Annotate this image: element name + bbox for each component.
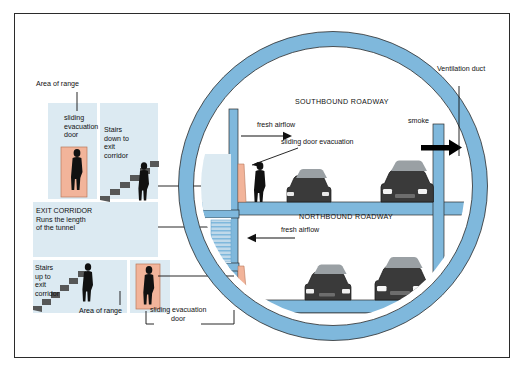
label-ventilation-duct: Ventilation duct [437, 65, 485, 74]
label-sliding-door-evacuation: sliding door evacuation [281, 138, 354, 147]
diagram-canvas: Area of range sliding evacuation door St… [0, 0, 532, 383]
label-stairs-down: Stairs down to exit corridor [104, 126, 129, 160]
label-sliding-evacuation-door-bottom: sliding evacuation door [150, 306, 206, 323]
label-sliding-evacuation-door-top: sliding evacuation door [64, 114, 98, 140]
label-southbound-roadway: SOUTHBOUND ROADWAY [295, 98, 389, 107]
tunnel-ring-group [179, 32, 488, 358]
interior-stairs-upper [211, 220, 231, 262]
tunnel-diagram-svg [15, 14, 509, 357]
label-fresh-airflow-upper: fresh airflow [257, 121, 295, 130]
label-exit-corridor: EXIT CORRIDOR Runs the length of the tun… [36, 207, 92, 233]
label-fresh-airflow-lower: fresh airflow [281, 226, 319, 235]
label-stairs-up: Stairs up to exit corridor [35, 264, 59, 298]
label-area-of-range-bottom: Area of range [79, 307, 122, 316]
label-northbound-roadway: NORTHBOUND ROADWAY [299, 213, 393, 222]
label-area-of-range-top: Area of range [36, 80, 79, 89]
corridor-compartment-upper [191, 154, 231, 210]
diagram-frame: Area of range sliding evacuation door St… [14, 13, 510, 358]
label-smoke: smoke [408, 117, 429, 126]
